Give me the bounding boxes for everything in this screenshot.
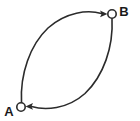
node-a-circle[interactable] [17,103,25,111]
node-b-circle[interactable] [108,10,116,18]
diagram-canvas: A B [0,0,140,121]
node-a-label: A [4,104,14,119]
graph-svg: A B [0,0,140,121]
node-b-label: B [119,4,128,19]
